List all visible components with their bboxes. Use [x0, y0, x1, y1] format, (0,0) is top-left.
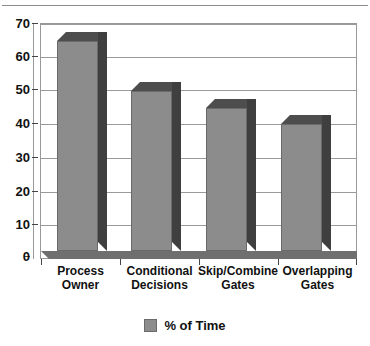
- xaxis-label-line-2: Gates: [196, 278, 280, 292]
- gridline-70: [41, 24, 356, 25]
- xaxis-label-line-2: Owner: [41, 278, 120, 292]
- xaxis-label-line-1: Overlapping: [275, 264, 360, 278]
- ytick-mark-70: [32, 23, 38, 24]
- ytick-mark-60: [32, 56, 38, 57]
- legend-swatch-pct-of-time: [144, 319, 157, 332]
- bar-front-face: [131, 91, 172, 251]
- ytick-mark-40: [32, 123, 38, 124]
- xaxis-label-line-1: Process: [41, 264, 120, 278]
- bar-side-face: [98, 32, 107, 242]
- ytick-mark-10: [32, 224, 38, 225]
- xaxis-label-skip-combine-gates: Skip/Combine Gates: [196, 264, 280, 292]
- xaxis-label-line-1: Skip/Combine: [196, 264, 280, 278]
- ytick-label-30: 30: [0, 151, 30, 164]
- ytick-label-10: 10: [0, 218, 30, 231]
- bar-front-face: [57, 41, 98, 251]
- bar-chart: 70 60 50 40 30 20 10 0 Process Owner Con…: [0, 0, 370, 346]
- ytick-label-60: 60: [0, 50, 30, 63]
- plot-floor: [41, 251, 357, 259]
- ytick-label-40: 40: [0, 117, 30, 130]
- bar-side-face: [322, 115, 331, 242]
- bar-side-face: [247, 99, 256, 242]
- bar-skip-combine-gates[interactable]: [206, 108, 247, 251]
- xaxis-label-line-1: Conditional: [118, 264, 201, 278]
- chart-legend: % of Time: [0, 318, 370, 333]
- xaxis-label-process-owner: Process Owner: [41, 264, 120, 292]
- bar-overlapping-gates[interactable]: [281, 124, 322, 251]
- xaxis-label-line-2: Decisions: [118, 278, 201, 292]
- bar-side-face: [172, 82, 181, 242]
- bar-conditional-decisions[interactable]: [131, 91, 172, 251]
- ytick-label-50: 50: [0, 83, 30, 96]
- bar-front-face: [206, 108, 247, 251]
- bar-process-owner[interactable]: [57, 41, 98, 251]
- ytick-mark-50: [32, 89, 38, 90]
- xaxis-label-overlapping-gates: Overlapping Gates: [275, 264, 360, 292]
- ytick-mark-20: [32, 191, 38, 192]
- ytick-label-0: 0: [0, 250, 30, 263]
- header-divider: [2, 5, 368, 6]
- xaxis-label-conditional-decisions: Conditional Decisions: [118, 264, 201, 292]
- ytick-label-70: 70: [0, 17, 30, 30]
- ytick-label-20: 20: [0, 185, 30, 198]
- legend-label-pct-of-time: % of Time: [164, 318, 225, 333]
- xaxis-label-line-2: Gates: [275, 278, 360, 292]
- bar-front-face: [281, 124, 322, 251]
- ytick-mark-30: [32, 157, 38, 158]
